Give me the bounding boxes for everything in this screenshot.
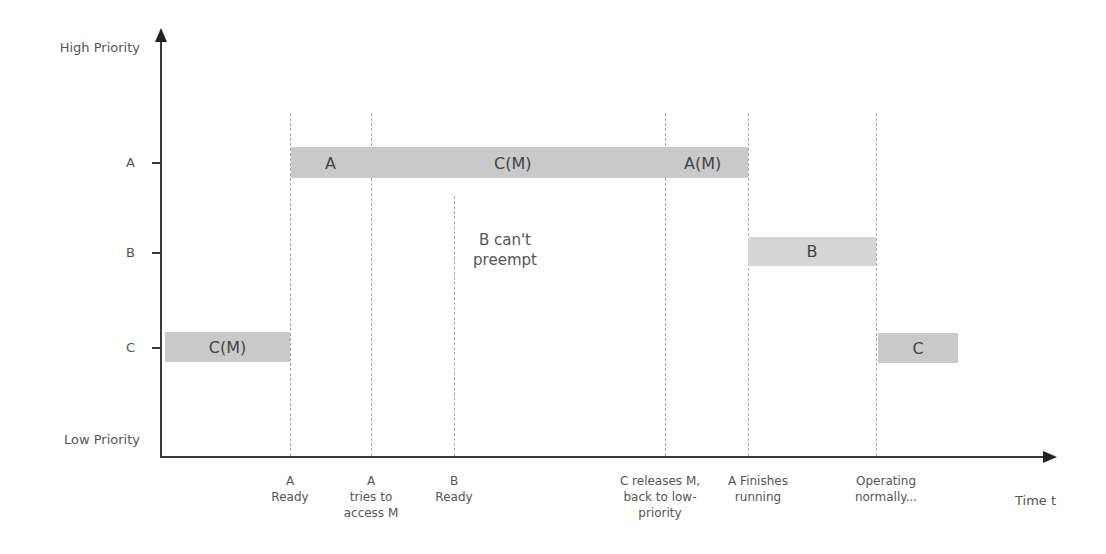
high-priority-label: High Priority [0, 40, 140, 55]
y-axis [160, 40, 162, 458]
bar-label: C(M) [209, 338, 246, 357]
level-b-label: B [0, 245, 135, 260]
event-label-a-ready: A Ready [250, 473, 330, 505]
event-line-a-finishes [748, 113, 749, 456]
bar-c-holds-m: C(M) [165, 332, 290, 362]
x-axis-arrow-icon [1043, 451, 1057, 463]
x-axis [160, 456, 1046, 458]
bar-label: C [912, 339, 923, 358]
y-axis-arrow-icon [155, 28, 167, 42]
event-label-a-finishes: A Finishes running [708, 473, 808, 505]
level-c-tick [152, 347, 160, 349]
event-line-operating [876, 113, 877, 456]
event-label-a-tries: A tries to access M [331, 473, 411, 521]
level-b-tick [152, 252, 160, 254]
b-cant-preempt-note: B can't preempt [440, 230, 570, 270]
bar-c: C [878, 333, 958, 363]
low-priority-label: Low Priority [0, 432, 140, 447]
event-label-b-ready: B Ready [414, 473, 494, 505]
event-label-operating: Operating normally... [836, 473, 936, 505]
bar-a-label: A [325, 154, 336, 173]
event-label-c-releases: C releases M, back to low- priority [595, 473, 725, 521]
level-c-label: C [0, 340, 135, 355]
bar-label: B [807, 242, 818, 261]
bar-a-holds-m-label: A(M) [684, 154, 721, 173]
bar-b: B [748, 237, 876, 266]
level-a-tick [152, 162, 160, 164]
time-axis-label: Time t [1015, 493, 1056, 508]
level-a-label: A [0, 155, 135, 170]
bar-c-inherited-label: C(M) [494, 154, 531, 173]
